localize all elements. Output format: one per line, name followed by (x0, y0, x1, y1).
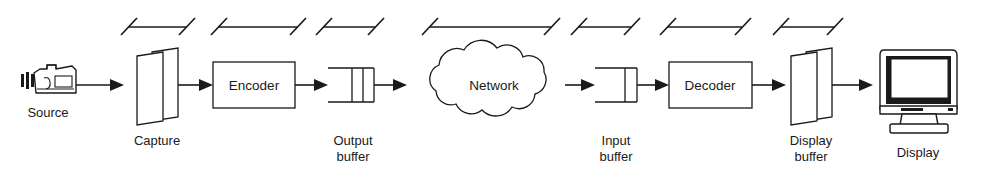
node-output-buffer: Output buffer (328, 68, 374, 164)
node-encoder-label: Encoder (229, 78, 280, 93)
node-source: Source (21, 65, 76, 120)
node-source-label: Source (27, 105, 68, 120)
crt-monitor-icon (880, 50, 957, 133)
span-marker-4 (422, 18, 560, 35)
span-marker-3 (316, 18, 384, 35)
diagram-canvas: Source Capture Encoder Output buffer (0, 0, 988, 185)
node-encoder: Encoder (213, 62, 295, 108)
connection-capture-encoder (178, 79, 213, 91)
node-output-buffer-label-line2: buffer (336, 149, 370, 164)
span-marker-1 (121, 18, 195, 35)
connection-decoder-displaybuffer (752, 79, 786, 91)
node-capture: Capture (134, 48, 180, 148)
node-network: Network (430, 40, 546, 116)
node-output-buffer-label-line1: Output (333, 133, 372, 148)
node-input-buffer: Input buffer (595, 68, 637, 164)
video-pipeline-diagram: Source Capture Encoder Output buffer (0, 0, 988, 185)
node-capture-label: Capture (134, 133, 180, 148)
span-marker-6 (660, 18, 751, 35)
span-marker-5 (571, 18, 640, 35)
node-network-label: Network (469, 78, 519, 93)
connection-network-inputbuffer (565, 79, 595, 91)
connection-source-capture (76, 79, 124, 91)
node-decoder-label: Decoder (684, 78, 736, 93)
node-display-label: Display (897, 145, 940, 160)
node-input-buffer-label-line1: Input (602, 133, 631, 148)
node-display: Display (880, 50, 957, 160)
span-marker-group (121, 18, 843, 35)
connection-outputbuffer-network (374, 79, 407, 91)
node-input-buffer-label-line2: buffer (599, 149, 633, 164)
node-display-buffer-label-line1: Display (790, 133, 833, 148)
camcorder-icon (21, 65, 76, 93)
node-display-buffer-label-line2: buffer (794, 149, 828, 164)
node-display-buffer: Display buffer (790, 48, 833, 164)
node-decoder: Decoder (669, 62, 752, 108)
connection-encoder-outputbuffer (295, 79, 328, 91)
span-marker-7 (773, 18, 843, 35)
connection-inputbuffer-decoder (637, 79, 669, 91)
span-marker-2 (211, 18, 306, 35)
connection-displaybuffer-display (828, 79, 873, 91)
